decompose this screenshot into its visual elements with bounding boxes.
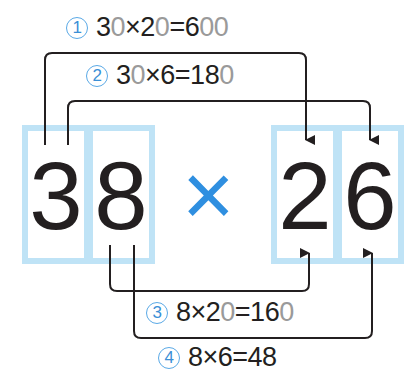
step-text: 3 — [96, 12, 111, 43]
step-text: =6 — [169, 12, 199, 43]
step-number-circle: 4 — [158, 347, 180, 369]
step-3: 38×20=160 — [146, 297, 294, 328]
step-text: ×2 — [125, 12, 155, 43]
step-number-circle: 3 — [146, 302, 168, 324]
digit-a-ones: 8 — [91, 148, 151, 244]
step-text: 0 — [131, 60, 146, 91]
step-text: 0 — [111, 12, 126, 43]
step-2: 230×6=180 — [86, 60, 234, 91]
step-text: 8×2 — [176, 297, 220, 328]
arrow-step-3 — [110, 245, 309, 291]
digit-a-tens: 3 — [26, 148, 86, 244]
digit-b-ones: 6 — [340, 148, 400, 244]
step-text: ×6=18 — [145, 60, 219, 91]
step-1: 130×20=600 — [66, 12, 228, 43]
step-text: 3 — [116, 60, 131, 91]
step-number-circle: 2 — [86, 65, 108, 87]
step-text: 0 — [219, 60, 234, 91]
step-text: 00 — [199, 12, 228, 43]
step-4: 48×6=48 — [158, 342, 277, 373]
arrow-step-2 — [68, 101, 370, 145]
times-operator: × — [182, 150, 235, 240]
step-number-circle: 1 — [66, 17, 88, 39]
digit-b-tens: 2 — [275, 148, 335, 244]
step-text: 8×6=48 — [188, 342, 277, 373]
step-text: 0 — [155, 12, 170, 43]
step-text: =16 — [235, 297, 279, 328]
step-text: 0 — [220, 297, 235, 328]
step-text: 0 — [279, 297, 294, 328]
